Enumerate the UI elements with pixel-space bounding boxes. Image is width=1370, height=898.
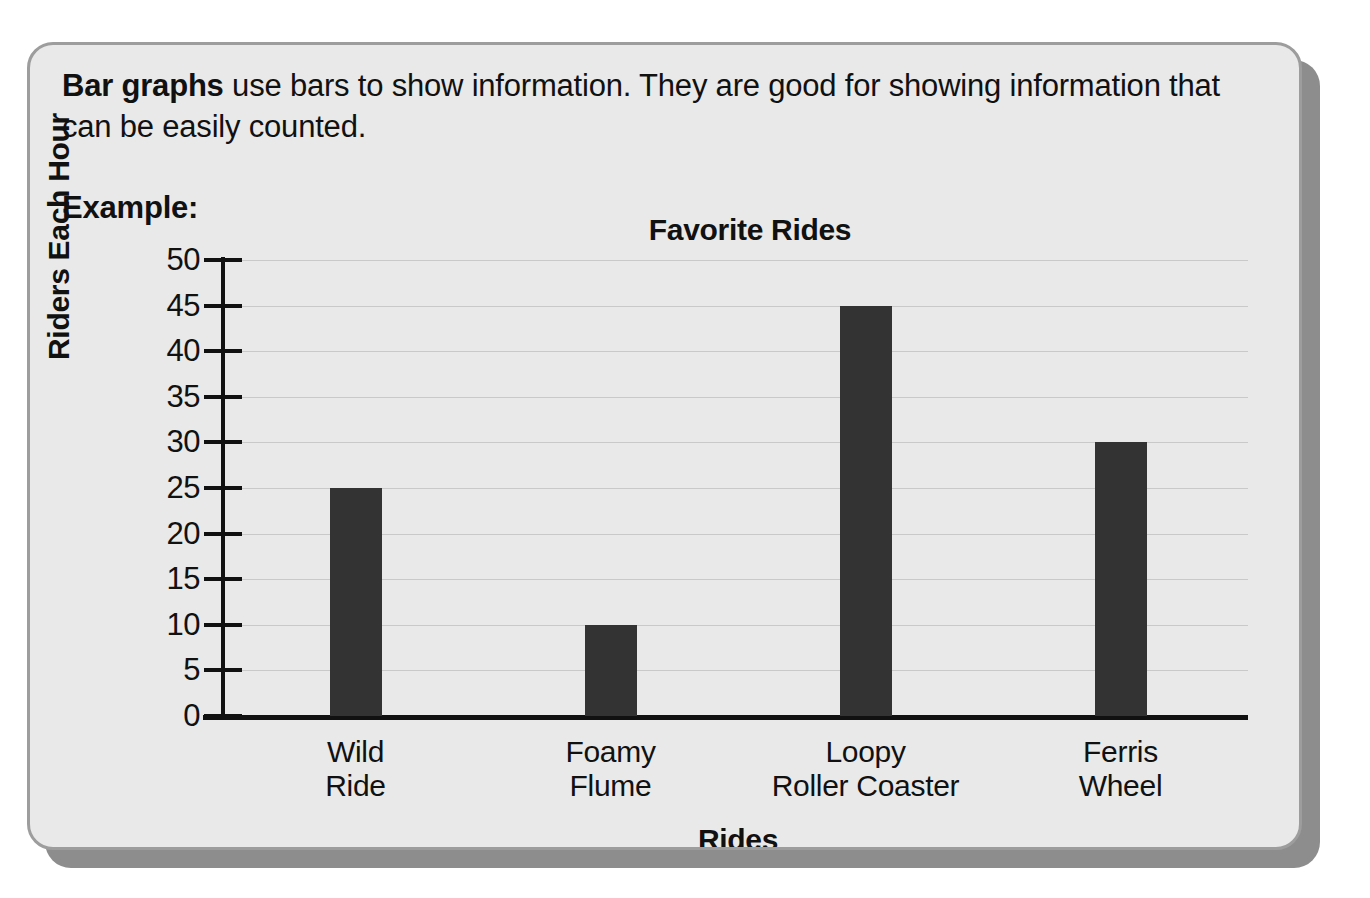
- y-axis-title: Riders Each Hour: [42, 60, 76, 360]
- y-axis-tick-label: 30: [130, 426, 200, 457]
- x-axis-title: Rides: [228, 823, 1248, 850]
- y-axis-tick: [204, 486, 242, 490]
- bar: [585, 625, 637, 716]
- gridline: [228, 306, 1248, 307]
- plot-area: [228, 260, 1248, 716]
- y-axis-tick: [204, 623, 242, 627]
- gridline: [228, 351, 1248, 352]
- y-axis-tick: [204, 349, 242, 353]
- y-axis-tick-label: 40: [130, 335, 200, 366]
- y-axis-tick-label: 5: [130, 654, 200, 685]
- y-axis-tick: [204, 258, 242, 262]
- y-axis-tick-label: 35: [130, 381, 200, 412]
- y-axis-tick: [204, 304, 242, 308]
- bar: [330, 488, 382, 716]
- chart-title: Favorite Rides: [590, 213, 910, 247]
- y-axis-tick: [204, 532, 242, 536]
- x-axis-category-label: FerrisWheel: [961, 735, 1281, 802]
- gridline: [228, 260, 1248, 261]
- y-axis-tick-label: 0: [130, 700, 200, 731]
- y-axis-tick: [204, 395, 242, 399]
- gridline: [228, 397, 1248, 398]
- y-axis-tick: [204, 577, 242, 581]
- worksheet-card: Bar graphs use bars to show information.…: [27, 42, 1302, 850]
- y-axis-tick-label: 20: [130, 518, 200, 549]
- y-axis-tick: [204, 668, 242, 672]
- bar: [1095, 442, 1147, 716]
- y-axis-tick-label: 25: [130, 472, 200, 503]
- y-axis-tick: [204, 440, 242, 444]
- y-axis-tick-label: 50: [130, 244, 200, 275]
- y-axis-tick-label: 10: [130, 609, 200, 640]
- bar: [840, 306, 892, 716]
- y-axis-tick-label: 45: [130, 290, 200, 321]
- y-axis-tick-label: 15: [130, 563, 200, 594]
- bar-chart: Favorite Rides Riders Each Hour 05101520…: [30, 45, 1299, 847]
- y-axis-tick: [204, 714, 242, 718]
- y-axis-tick-labels: 05101520253035404550: [130, 260, 200, 716]
